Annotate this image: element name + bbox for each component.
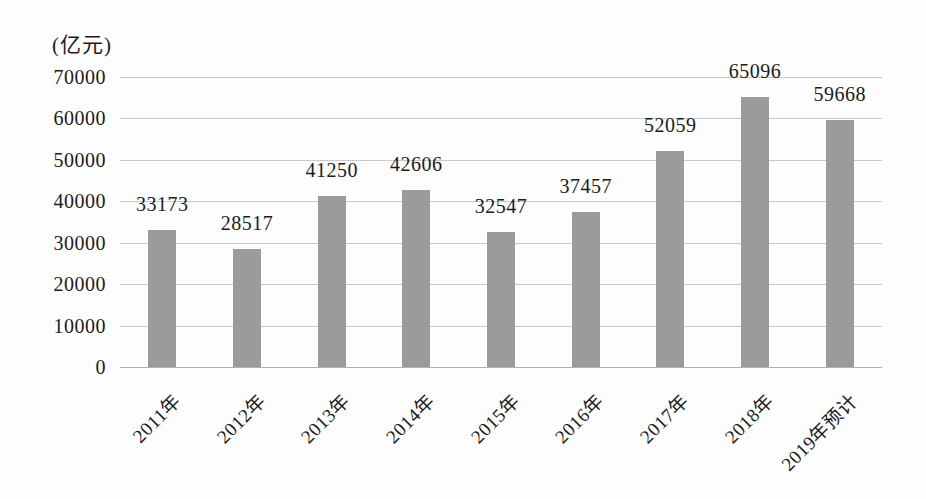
y-tick-label: 40000	[0, 189, 106, 213]
bar-value-label: 52059	[615, 115, 725, 135]
x-tick-label: 2019年预计	[778, 391, 861, 474]
y-tick-label: 50000	[0, 148, 106, 172]
bar	[487, 232, 515, 367]
bar-value-label: 65096	[700, 61, 810, 81]
y-tick-label: 60000	[0, 106, 106, 130]
y-tick-label: 10000	[0, 314, 106, 338]
bar	[656, 151, 684, 367]
bar-value-label: 32547	[446, 196, 556, 216]
y-tick-label: 0	[0, 355, 106, 379]
y-axis-unit-label: (亿元)	[52, 28, 112, 58]
bar	[741, 97, 769, 367]
x-tick-label: 2013年	[298, 391, 354, 447]
x-tick-label: 2012年	[213, 391, 269, 447]
x-tick-label: 2016年	[552, 391, 608, 447]
x-axis-baseline	[120, 367, 882, 368]
bar	[826, 120, 854, 367]
bar-value-label: 28517	[192, 213, 302, 233]
y-tick-label: 70000	[0, 65, 106, 89]
bar	[572, 212, 600, 367]
x-tick-label: 2017年	[636, 391, 692, 447]
x-tick-label: 2018年	[721, 391, 777, 447]
x-tick-label: 2015年	[467, 391, 523, 447]
y-tick-label: 20000	[0, 272, 106, 296]
bar-value-label: 59668	[785, 84, 895, 104]
bar-value-label: 42606	[361, 154, 471, 174]
bar-value-label: 37457	[531, 176, 641, 196]
bar-chart: (亿元) 01000020000300004000050000600007000…	[0, 0, 926, 499]
bar	[318, 196, 346, 367]
bar	[148, 230, 176, 367]
x-tick-label: 2014年	[382, 391, 438, 447]
y-tick-label: 30000	[0, 231, 106, 255]
bar	[402, 190, 430, 367]
bar-value-label: 33173	[107, 194, 217, 214]
x-tick-label: 2011年	[129, 391, 184, 446]
bar	[233, 249, 261, 367]
